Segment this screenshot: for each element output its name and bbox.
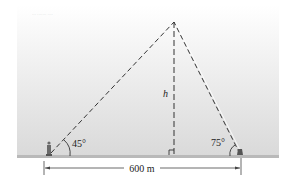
header-text: ··· ······· ···· <box>32 12 53 17</box>
height-label: h <box>163 88 168 99</box>
left-angle-label: 45° <box>72 138 86 149</box>
right-observer-icon <box>237 149 243 155</box>
left-arrowhead-icon <box>45 167 50 170</box>
triangulation-diagram: ··· ······· ···· h 45° 75° 600 m <box>0 0 292 183</box>
right-angle-label: 75° <box>211 137 225 148</box>
right-arrowhead-icon <box>235 167 240 170</box>
distance-label: 600 m <box>129 163 155 174</box>
ground-line <box>17 155 279 158</box>
sky-panel <box>17 5 279 157</box>
